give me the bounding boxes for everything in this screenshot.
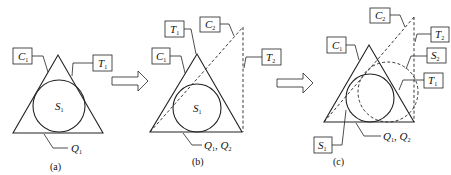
triangle-c1 bbox=[324, 45, 414, 122]
leader-t1 bbox=[399, 80, 424, 90]
leader-c1 bbox=[170, 56, 185, 73]
leader-t1 bbox=[184, 29, 196, 54]
leader-q1 bbox=[44, 134, 68, 148]
diagram-canvas: C1 T1 S1 Q1 (a) T1 C2 C1 T2 S1 bbox=[0, 0, 451, 175]
label-q1-q2: Q1, Q2 bbox=[204, 139, 231, 152]
leader-q1-q2 bbox=[356, 123, 381, 136]
dashed-diagonal-c2 bbox=[150, 27, 243, 132]
leader-s2 bbox=[406, 56, 427, 69]
caption-b: (b) bbox=[192, 156, 204, 168]
leader-t2 bbox=[415, 34, 431, 42]
leader-c2 bbox=[390, 15, 405, 27]
circle-s2 bbox=[358, 62, 418, 122]
label-q1-q2: Q1, Q2 bbox=[383, 130, 410, 143]
caption-c: (c) bbox=[333, 156, 344, 168]
leader-c1 bbox=[346, 45, 359, 60]
leader-c1 bbox=[32, 56, 48, 72]
leader-t2 bbox=[244, 57, 262, 68]
triangle-c1 bbox=[13, 55, 103, 133]
dashed-diagonal-c2 bbox=[324, 17, 414, 122]
leader-t1 bbox=[72, 63, 93, 76]
label-s1: S1 bbox=[55, 100, 64, 113]
triangle-c1 bbox=[150, 54, 242, 132]
right-hollow-arrow-icon bbox=[112, 71, 148, 91]
panel-b: T1 C2 C1 T2 S1 Q1, Q2 (b) bbox=[150, 17, 281, 168]
circle-s1 bbox=[346, 74, 394, 122]
right-hollow-arrow-icon bbox=[277, 73, 313, 93]
label-s1: S1 bbox=[193, 102, 202, 115]
leader-q1-q2 bbox=[183, 133, 202, 145]
panel-c: C2 C1 T2 S2 T1 S1 Q1, Q2 (c) bbox=[314, 8, 449, 168]
label-q1: Q1 bbox=[71, 142, 82, 155]
leader-c2 bbox=[220, 24, 234, 36]
leader-s1 bbox=[332, 110, 346, 145]
caption-a: (a) bbox=[50, 161, 61, 173]
panel-a: C1 T1 S1 Q1 (a) bbox=[13, 48, 112, 173]
